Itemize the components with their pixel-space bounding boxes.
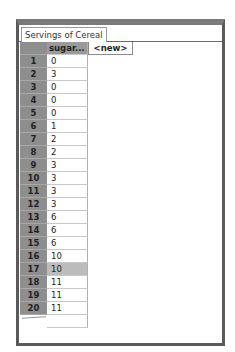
header-row: sugar... <new> [20,42,133,55]
row-index: 6 [20,120,47,133]
cell-sugar[interactable]: 6 [47,211,88,224]
new-row-index [20,315,47,328]
case-table-grid: sugar... <new> 10 23 30 40 50 61 72 82 9… [20,42,133,328]
table-row[interactable]: 40 [20,94,133,107]
row-index: 14 [20,224,47,237]
row-index: 3 [20,81,47,94]
table-row-selected[interactable]: 1710 [20,263,133,276]
table-row[interactable]: 146 [20,224,133,237]
index-header [20,42,47,55]
new-case-cell[interactable] [47,315,88,328]
cell-sugar[interactable]: 0 [47,55,88,68]
table-row[interactable]: 30 [20,81,133,94]
row-index: 20 [20,302,47,315]
row-index: 1 [20,55,47,68]
row-index: 7 [20,133,47,146]
title-bar: Servings of Cereal [19,25,222,42]
table-row[interactable]: 23 [20,68,133,81]
column-header-sugar[interactable]: sugar... [47,42,88,55]
cell-sugar[interactable]: 6 [47,237,88,250]
row-index: 10 [20,172,47,185]
row-index: 17 [20,263,47,276]
cell-sugar[interactable]: 2 [47,133,88,146]
row-index: 5 [20,107,47,120]
table-row[interactable]: 1610 [20,250,133,263]
cell-sugar[interactable]: 10 [47,263,88,276]
row-index: 16 [20,250,47,263]
cell-sugar[interactable]: 3 [47,159,88,172]
new-case-row[interactable] [20,315,133,328]
row-index: 13 [20,211,47,224]
table-row[interactable]: 50 [20,107,133,120]
table-row[interactable]: 123 [20,198,133,211]
column-header-new[interactable]: <new> [88,42,133,55]
row-index: 19 [20,289,47,302]
row-index: 12 [20,198,47,211]
table-row[interactable]: 1911 [20,289,133,302]
row-index: 2 [20,68,47,81]
cell-sugar[interactable]: 2 [47,146,88,159]
cell-sugar[interactable]: 3 [47,172,88,185]
table-row[interactable]: 113 [20,185,133,198]
row-index: 15 [20,237,47,250]
cell-sugar[interactable]: 11 [47,289,88,302]
row-index: 18 [20,276,47,289]
table-row[interactable]: 82 [20,146,133,159]
cell-sugar[interactable]: 1 [47,120,88,133]
row-index: 9 [20,159,47,172]
row-index: 4 [20,94,47,107]
cell-sugar[interactable]: 3 [47,68,88,81]
table-row[interactable]: 1811 [20,276,133,289]
row-index: 8 [20,146,47,159]
cell-sugar[interactable]: 3 [47,185,88,198]
table-row[interactable]: 103 [20,172,133,185]
cell-sugar[interactable]: 0 [47,107,88,120]
table-row[interactable]: 72 [20,133,133,146]
table-row[interactable]: 10 [20,55,133,68]
cell-sugar[interactable]: 0 [47,94,88,107]
table-row[interactable]: 93 [20,159,133,172]
cell-sugar[interactable]: 3 [47,198,88,211]
cell-sugar[interactable]: 10 [47,250,88,263]
table-row[interactable]: 2011 [20,302,133,315]
table-title-tab[interactable]: Servings of Cereal [21,27,107,42]
cell-sugar[interactable]: 6 [47,224,88,237]
case-table-window: Servings of Cereal sugar... <new> 10 23 … [16,19,225,346]
cell-sugar[interactable]: 11 [47,302,88,315]
cell-sugar[interactable]: 0 [47,81,88,94]
row-index: 11 [20,185,47,198]
cell-sugar[interactable]: 11 [47,276,88,289]
table-row[interactable]: 156 [20,237,133,250]
table-row[interactable]: 136 [20,211,133,224]
table-row[interactable]: 61 [20,120,133,133]
